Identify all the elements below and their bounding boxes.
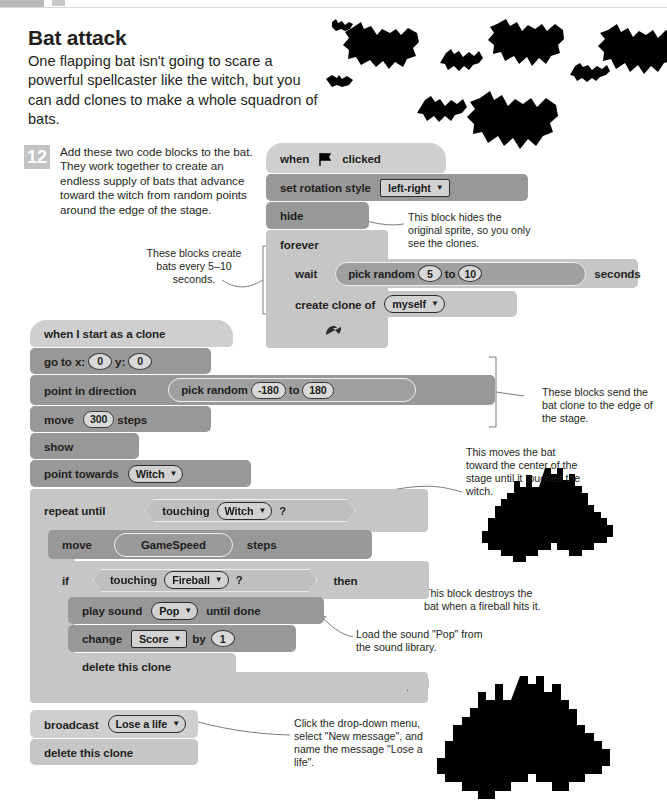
goto-y-input[interactable]: 0 xyxy=(128,353,152,370)
pick-random-label: pick random xyxy=(348,268,415,280)
step-instruction-text: Add these two code blocks to the bat. Th… xyxy=(60,145,265,217)
gamespeed-value: GameSpeed xyxy=(141,539,206,551)
article-intro: One flapping bat isn't going to scare a … xyxy=(28,52,318,130)
block-go-to-xy[interactable]: go to x: 0 y: 0 xyxy=(30,348,211,374)
create-clone-label: create clone of xyxy=(295,298,375,311)
point-towards-label: point towards xyxy=(44,467,119,480)
block-delete-this-clone-inner[interactable]: delete this clone xyxy=(68,653,236,679)
score-variable-value: Score xyxy=(139,633,169,645)
broadcast-message-value: Lose a life xyxy=(116,718,168,730)
reporter-pick-random-direction[interactable]: pick random -180 to 180 xyxy=(168,378,415,402)
touching-witch-value: Witch xyxy=(225,505,254,517)
block-change-score-by[interactable]: change Score ▼ by 1 xyxy=(68,625,296,652)
pick-random-to-input[interactable]: 180 xyxy=(302,382,333,399)
callout-move-toward: This moves the bat toward the center of … xyxy=(466,446,590,498)
hide-label: hide xyxy=(280,209,303,222)
block-wait-seconds[interactable]: wait pick random 5 to 10 seconds xyxy=(281,259,638,288)
touching-question-mark: ? xyxy=(236,574,243,586)
play-sound-dropdown[interactable]: Pop ▼ xyxy=(151,602,198,620)
header-running-title: DOOM ON THE BROOM xyxy=(82,0,247,1)
variable-gamespeed[interactable]: GameSpeed xyxy=(114,533,233,557)
goto-y-label: y: xyxy=(115,355,125,368)
touching-label: touching xyxy=(110,574,157,586)
chevron-down-icon: ▼ xyxy=(170,470,178,478)
callout-send-to-edge: These blocks send the bat clone to the e… xyxy=(542,386,660,425)
touching-label: touching xyxy=(162,505,209,517)
touching-question-mark: ? xyxy=(279,505,286,517)
delete-clone-label: delete this clone xyxy=(44,746,133,759)
change-label: change xyxy=(82,632,122,645)
block-hide[interactable]: hide xyxy=(266,202,369,229)
article-title: Bat attack xyxy=(28,26,126,50)
play-sound-label: play sound xyxy=(82,604,142,617)
touching-witch-dropdown[interactable]: Witch ▼ xyxy=(217,502,273,520)
point-towards-target-dropdown[interactable]: Witch ▼ xyxy=(128,465,184,483)
block-create-clone-of[interactable]: create clone of myself ▼ xyxy=(281,291,517,317)
pick-random-to-label: to xyxy=(445,268,456,280)
rotation-style-dropdown[interactable]: left-right ▼ xyxy=(380,179,450,197)
set-rotation-label: set rotation style xyxy=(280,181,371,194)
goto-x-label: go to x: xyxy=(44,355,85,368)
chevron-down-icon: ▼ xyxy=(431,300,439,308)
delete-clone-label: delete this clone xyxy=(82,660,171,673)
clicked-label: clicked xyxy=(342,152,381,165)
block-play-sound-until-done[interactable]: play sound Pop ▼ until done xyxy=(68,597,324,624)
seconds-label: seconds xyxy=(594,267,640,280)
create-clone-target-value: myself xyxy=(392,298,426,310)
pick-random-from-input[interactable]: -180 xyxy=(251,382,286,399)
change-by-label: by xyxy=(192,632,205,645)
move-label: move xyxy=(44,413,74,426)
when-label: when xyxy=(280,152,309,165)
point-towards-target-value: Witch xyxy=(136,468,165,480)
pick-random-from-input[interactable]: 5 xyxy=(418,265,442,282)
block-broadcast[interactable]: broadcast Lose a life ▼ xyxy=(30,710,198,738)
header-divider-block xyxy=(52,0,65,6)
chevron-down-icon: ▼ xyxy=(184,607,192,615)
move-steps-unit: steps xyxy=(247,538,277,551)
callout-broadcast-help: Click the drop-down menu, select "New me… xyxy=(294,717,444,769)
block-if-then[interactable]: if touching Fireball ▼ ? then xyxy=(48,561,429,599)
block-repeat-until[interactable]: repeat until touching Witch ▼ ? xyxy=(30,489,428,532)
touching-fireball-value: Fireball xyxy=(172,574,210,586)
show-label: show xyxy=(44,440,73,453)
touching-fireball-dropdown[interactable]: Fireball ▼ xyxy=(164,571,228,589)
block-when-i-start-as-clone[interactable]: when I start as a clone xyxy=(30,320,233,347)
pick-random-to-input[interactable]: 10 xyxy=(458,265,482,282)
block-point-in-direction[interactable]: point in direction pick random -180 to 1… xyxy=(30,375,495,405)
if-label: if xyxy=(62,574,69,587)
change-amount-input[interactable]: 1 xyxy=(211,630,235,647)
boolean-touching-fireball[interactable]: touching Fireball ▼ ? xyxy=(93,569,318,592)
forever-loop-arrow-icon xyxy=(323,322,341,341)
broadcast-message-dropdown[interactable]: Lose a life ▼ xyxy=(108,715,187,733)
boolean-touching-witch[interactable]: touching Witch ▼ ? xyxy=(145,499,355,522)
block-show[interactable]: show xyxy=(30,433,139,459)
block-when-flag-clicked[interactable]: when clicked xyxy=(266,143,446,173)
then-label: then xyxy=(333,574,357,587)
block-delete-this-clone-end[interactable]: delete this clone xyxy=(30,739,198,765)
create-clone-target-dropdown[interactable]: myself ▼ xyxy=(384,295,444,313)
block-set-rotation-style[interactable]: set rotation style left-right ▼ xyxy=(266,174,528,201)
running-header: 174 DOOM ON THE BROOM xyxy=(0,0,667,9)
play-sound-suffix: until done xyxy=(206,604,260,617)
block-forever[interactable]: forever xyxy=(266,230,388,258)
chevron-down-icon: ▼ xyxy=(174,635,182,643)
block-move-300-steps[interactable]: move 300 steps xyxy=(30,406,211,432)
play-sound-value: Pop xyxy=(159,605,179,617)
score-variable-dropdown[interactable]: Score ▼ xyxy=(131,630,187,648)
block-point-towards[interactable]: point towards Witch ▼ xyxy=(30,460,251,487)
forever-label: forever xyxy=(280,238,319,251)
move-steps-input[interactable]: 300 xyxy=(83,411,114,428)
chevron-down-icon: ▼ xyxy=(436,184,444,192)
callout-destroy-bat: This block destroys the bat when a fireb… xyxy=(424,587,546,613)
reporter-pick-random-seconds[interactable]: pick random 5 to 10 xyxy=(335,262,586,286)
step-number-badge: 12 xyxy=(24,145,50,169)
callout-load-sound: Load the sound "Pop" from the sound libr… xyxy=(356,628,484,654)
callout-create-bats: These blocks create bats every 5–10 seco… xyxy=(140,247,248,286)
header-page-number: 174 xyxy=(6,0,34,3)
block-move-gamespeed-steps[interactable]: move GameSpeed steps xyxy=(48,530,372,559)
broadcast-label: broadcast xyxy=(44,718,99,731)
pick-random-to-label: to xyxy=(289,384,300,396)
chevron-down-icon: ▼ xyxy=(258,507,266,515)
goto-x-input[interactable]: 0 xyxy=(88,353,112,370)
move-label: move xyxy=(62,538,92,551)
